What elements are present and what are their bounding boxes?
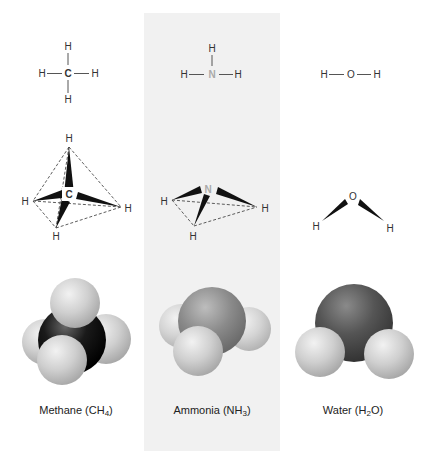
hydrogen-sphere (37, 335, 87, 385)
atom-c-center: C (64, 68, 71, 79)
methane-tetrahedral-model: C H H H H (21, 133, 131, 242)
methane-space-filling-model (22, 278, 131, 385)
atom-h-bottom: H (189, 231, 196, 242)
atom-h-top: H (64, 41, 71, 52)
molecule-diagram: H H C H H H H N H H O H (0, 0, 438, 464)
atom-h-left: H (21, 196, 28, 207)
atom-h-right: H (373, 69, 380, 80)
atom-h-left: H (160, 196, 167, 207)
atom-h-top: H (65, 133, 72, 144)
methane-caption: Methane (CH4) (39, 404, 113, 416)
ammonia-structural-formula: H H N H (180, 43, 241, 80)
atom-h-right: H (386, 223, 393, 234)
atom-h-left: H (38, 68, 45, 79)
hydrogen-sphere (50, 278, 100, 328)
water-caption: Water (H2O) (323, 404, 383, 416)
methane-structural-formula: H H C H H (38, 41, 98, 105)
water-space-filling-model (295, 284, 414, 379)
atom-o-center: O (347, 69, 355, 80)
water-structural-formula: H O H (320, 69, 380, 80)
atom-n-center: N (204, 184, 211, 195)
water-bent-model: O H H (312, 191, 393, 234)
ammonia-space-filling-model (159, 287, 271, 376)
atom-h-right: H (234, 69, 241, 80)
atom-h-right: H (261, 203, 268, 214)
ammonia-caption: Ammonia (NH3) (173, 404, 250, 416)
atom-c-center: C (65, 189, 72, 200)
atom-o-center: O (349, 191, 357, 202)
hydrogen-sphere (173, 326, 223, 376)
atom-n-center: N (208, 69, 215, 80)
atom-h-left: H (320, 69, 327, 80)
atom-h-left: H (180, 69, 187, 80)
atom-h-bottom: H (52, 231, 59, 242)
ammonia-pyramidal-model: N H H H (160, 184, 268, 242)
hydrogen-sphere (295, 327, 345, 377)
atom-h-right: H (91, 68, 98, 79)
atom-h-right: H (124, 203, 131, 214)
atom-h-bottom: H (64, 94, 71, 105)
atom-h-top: H (208, 43, 215, 54)
hydrogen-sphere (364, 329, 414, 379)
atom-h-left: H (312, 221, 319, 232)
